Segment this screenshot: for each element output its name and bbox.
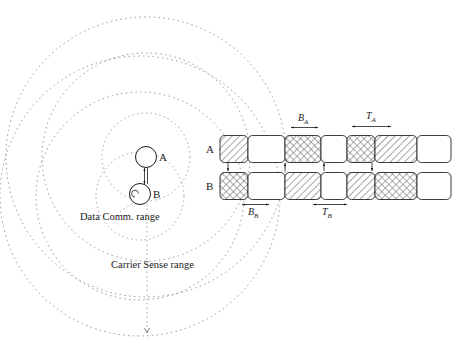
block-b-1 — [220, 173, 248, 200]
block-b-4 — [321, 173, 347, 200]
timeline-a-label: A — [206, 143, 214, 155]
measure-t-b: TB — [313, 205, 347, 220]
block-a-3 — [285, 136, 321, 163]
timeline-b-blocks — [220, 173, 451, 200]
node-a[interactable]: A — [136, 147, 168, 168]
node-a-label: A — [159, 151, 167, 163]
node-b-circle — [130, 184, 151, 205]
node-b[interactable]: B — [130, 184, 161, 205]
block-b-5 — [347, 173, 375, 200]
measure-b-a-label: BA — [298, 112, 309, 126]
carrier-sense-range-label: Carrier Sense range — [111, 259, 194, 270]
a-b-link-arrow — [145, 168, 148, 184]
figure-canvas: A B Data Comm. range Carrier Sense range… — [0, 0, 453, 342]
block-b-3 — [285, 173, 321, 200]
block-a-2 — [248, 136, 285, 163]
network-timing-figure: A B Data Comm. range Carrier Sense range… — [0, 0, 453, 342]
measure-t-b-label: TB — [322, 206, 333, 220]
measure-b-a: BA — [291, 112, 318, 128]
measure-t-a: TA — [352, 110, 391, 127]
data-comm-range-label: Data Comm. range — [80, 211, 160, 222]
block-a-5 — [347, 136, 375, 163]
measure-t-a-label: TA — [366, 110, 377, 124]
measure-b-b: BB — [242, 205, 269, 220]
block-b-6 — [375, 173, 417, 200]
block-b-7 — [417, 173, 451, 200]
timeline-a-blocks — [220, 136, 451, 163]
block-a-4 — [321, 136, 347, 163]
block-b-2 — [248, 173, 285, 200]
timeline-b-label: B — [206, 180, 213, 192]
block-a-1 — [220, 136, 248, 163]
block-a-6 — [375, 136, 417, 163]
measure-b-b-label: BB — [248, 206, 259, 220]
node-b-label: B — [153, 188, 160, 200]
block-a-7 — [417, 136, 451, 163]
node-a-circle — [136, 147, 157, 168]
